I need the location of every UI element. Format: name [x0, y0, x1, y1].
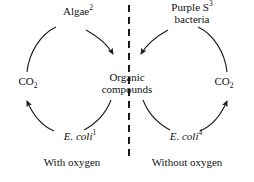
node-purple-bacteria-line2: bacteria: [146, 14, 238, 26]
carbon-cycle-diagram: Algae2 Purple S3 bacteria CO2 CO2 Organi…: [0, 0, 254, 182]
arrow-algae-to-organic: [86, 30, 113, 54]
node-ecoli-left-superscript: 1: [92, 128, 96, 137]
node-purple-bacteria-superscript: 3: [209, 0, 213, 8]
node-algae: Algae2: [40, 6, 116, 18]
node-purple-bacteria-line1: Purple S: [171, 1, 209, 13]
caption-without-oxygen: Without oxygen: [128, 157, 246, 169]
node-algae-superscript: 2: [89, 3, 93, 12]
node-ecoli-right: E. coli4: [148, 131, 224, 143]
node-co2-right: CO2: [198, 76, 250, 88]
caption-with-oxygen: With oxygen: [18, 157, 126, 169]
arrow-co2-left-to-algae: [27, 27, 56, 72]
arrow-ecoli-left-to-co2-left: [27, 101, 54, 131]
node-organic-compounds: Organic compounds: [88, 72, 166, 96]
node-ecoli-left-text: E. coli: [64, 130, 93, 142]
node-co2-left-formula: CO: [18, 75, 33, 87]
node-ecoli-left: E. coli1: [42, 131, 118, 143]
node-ecoli-right-text: E. coli: [170, 130, 199, 142]
arrow-organic-to-ecoli-right: [143, 100, 170, 130]
node-co2-right-subscript: 2: [230, 81, 234, 90]
arrow-ecoli-right-to-co2-right: [200, 101, 227, 131]
node-ecoli-right-superscript: 4: [198, 128, 202, 137]
node-co2-left-subscript: 2: [34, 81, 38, 90]
node-algae-text: Algae: [63, 5, 89, 17]
arrow-organic-to-ecoli-left: [84, 100, 111, 130]
arrow-purple-to-organic: [141, 30, 168, 54]
node-purple-bacteria: Purple S3 bacteria: [146, 2, 238, 26]
node-organic-compounds-line2: compounds: [88, 84, 166, 96]
node-co2-right-formula: CO: [214, 75, 229, 87]
node-co2-left: CO2: [2, 76, 54, 88]
arrow-co2-right-to-purple: [198, 27, 227, 72]
